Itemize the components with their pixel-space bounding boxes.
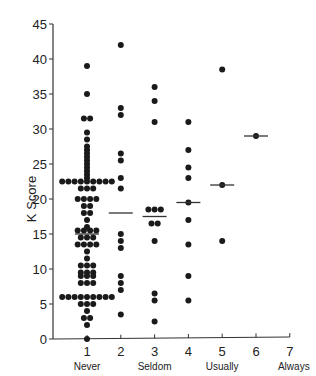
- data-point: [84, 294, 90, 300]
- data-point: [118, 273, 124, 279]
- category-label-always: Always: [278, 361, 310, 372]
- data-point: [118, 231, 124, 237]
- data-point: [72, 179, 78, 185]
- data-point: [84, 186, 90, 192]
- data-point: [185, 273, 191, 279]
- data-point: [103, 294, 109, 300]
- y-tick-label: 15: [33, 227, 47, 242]
- y-tick-label: 10: [33, 262, 47, 277]
- data-point: [152, 98, 158, 104]
- data-point: [84, 273, 90, 279]
- x-tick-label: 1: [83, 344, 90, 359]
- data-point: [78, 235, 84, 241]
- chart-svg: 0510152025303540451234567NeverSeldomUsua…: [0, 0, 316, 376]
- y-tick-label: 0: [40, 332, 47, 347]
- x-tick-label: 7: [286, 344, 293, 359]
- y-axis-label: K Score: [24, 176, 39, 222]
- data-point: [185, 242, 191, 248]
- data-point: [87, 203, 93, 209]
- data-point: [152, 238, 158, 244]
- data-point: [152, 207, 158, 213]
- data-point: [118, 105, 124, 111]
- data-point: [118, 312, 124, 318]
- data-point: [185, 217, 191, 223]
- data-point: [93, 196, 99, 202]
- data-point: [78, 280, 84, 286]
- data-point: [152, 298, 158, 304]
- x-tick-label: 4: [185, 344, 192, 359]
- y-tick-label: 30: [33, 122, 47, 137]
- data-point: [59, 294, 65, 300]
- data-point: [78, 294, 84, 300]
- data-point: [109, 179, 115, 185]
- data-point: [84, 130, 90, 136]
- data-point: [118, 186, 124, 192]
- data-point: [87, 196, 93, 202]
- data-point: [90, 273, 96, 279]
- data-point: [185, 119, 191, 125]
- data-point: [84, 322, 90, 328]
- x-tick-label: 3: [151, 344, 158, 359]
- data-point: [90, 294, 96, 300]
- data-point: [96, 179, 102, 185]
- data-point: [185, 165, 191, 171]
- data-point: [84, 301, 90, 307]
- data-point: [65, 294, 71, 300]
- data-point: [87, 228, 93, 234]
- data-point: [219, 67, 225, 73]
- data-point: [87, 242, 93, 248]
- data-point: [81, 242, 87, 248]
- data-point: [65, 179, 71, 185]
- data-point: [90, 235, 96, 241]
- data-point: [75, 242, 81, 248]
- data-point: [81, 196, 87, 202]
- data-point: [84, 235, 90, 241]
- data-point: [81, 210, 87, 216]
- data-point: [84, 308, 90, 314]
- data-point: [93, 242, 99, 248]
- data-point: [78, 179, 84, 185]
- data-point: [145, 207, 151, 213]
- y-tick-label: 35: [33, 87, 47, 102]
- data-point: [149, 221, 155, 227]
- data-point: [84, 217, 90, 223]
- data-point: [90, 280, 96, 286]
- data-point: [118, 245, 124, 251]
- data-point: [152, 291, 158, 297]
- data-point: [75, 228, 81, 234]
- data-point: [59, 179, 65, 185]
- x-tick-label: 6: [252, 344, 259, 359]
- data-point: [81, 116, 87, 122]
- data-point: [81, 228, 87, 234]
- data-point: [118, 175, 124, 181]
- data-point: [84, 256, 90, 262]
- data-point: [118, 42, 124, 48]
- data-point: [81, 315, 87, 321]
- data-point: [185, 147, 191, 153]
- data-point: [152, 319, 158, 325]
- data-point: [90, 186, 96, 192]
- data-point: [84, 137, 90, 143]
- data-point: [72, 294, 78, 300]
- data-point: [103, 179, 109, 185]
- data-point: [118, 238, 124, 244]
- data-point: [84, 280, 90, 286]
- data-point: [90, 263, 96, 269]
- data-point: [87, 315, 93, 321]
- data-point: [158, 207, 164, 213]
- data-point: [78, 273, 84, 279]
- data-point: [84, 179, 90, 185]
- x-tick-label: 2: [117, 344, 124, 359]
- data-point: [109, 294, 115, 300]
- data-point: [93, 228, 99, 234]
- data-point: [84, 336, 90, 342]
- data-point: [90, 179, 96, 185]
- data-point: [118, 280, 124, 286]
- data-point: [96, 294, 102, 300]
- y-tick-label: 5: [40, 297, 47, 312]
- category-label-usually: Usually: [206, 361, 239, 372]
- k-score-dot-plot: 0510152025303540451234567NeverSeldomUsua…: [0, 0, 316, 376]
- data-point: [87, 116, 93, 122]
- data-point: [118, 287, 124, 293]
- data-point: [90, 301, 96, 307]
